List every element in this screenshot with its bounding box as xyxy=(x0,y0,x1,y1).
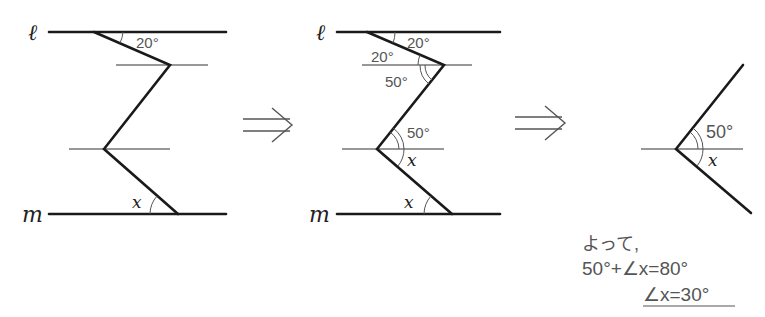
line-label-m: m xyxy=(309,202,330,227)
angle-arc-20-top xyxy=(393,32,395,43)
angle-arc-x xyxy=(150,196,157,214)
angle-arc-50-b xyxy=(690,132,698,149)
angle-arc-20-alt xyxy=(418,55,420,65)
diagram-canvas: ℓ m 20° x ℓ m 20° 20° 50° 50° xyxy=(0,0,765,317)
implies-arrow-1 xyxy=(243,108,292,142)
angle-label-x-mid: x xyxy=(407,150,417,170)
solution: よって, 50°+∠x=80° ∠x=30° xyxy=(582,234,735,306)
solution-line-2: 50°+∠x=80° xyxy=(582,258,688,279)
angle-arc-x-bottom xyxy=(424,196,431,214)
angle-label-x: x xyxy=(132,192,142,212)
zigzag-path xyxy=(94,32,178,214)
angle-label-20-alt: 20° xyxy=(371,48,394,65)
angle-arc-x-mid xyxy=(398,149,404,166)
angle-label-x-bottom: x xyxy=(404,192,414,212)
figure-auxiliary: ℓ m 20° 20° 50° 50° x x xyxy=(309,20,500,227)
implies-arrow-2 xyxy=(515,106,565,140)
angle-arc-x xyxy=(697,149,703,166)
angle-label-50-upper: 50° xyxy=(385,73,408,90)
angle-arc-50-upper-b xyxy=(425,65,432,80)
figure-extracted: 50° x xyxy=(641,65,751,213)
solution-line-3: ∠x=30° xyxy=(643,284,709,305)
solution-line-1: よって, xyxy=(582,234,639,254)
angle-arc-20 xyxy=(120,32,123,43)
line-label-l: ℓ xyxy=(28,20,38,45)
angle-label-50: 50° xyxy=(706,122,733,142)
angle-label-20: 20° xyxy=(136,34,159,51)
angle-label-20-top: 20° xyxy=(407,34,430,51)
angle-label-x: x xyxy=(708,150,718,170)
line-label-l: ℓ xyxy=(316,20,326,45)
angle-label-50-lower: 50° xyxy=(407,124,430,141)
figure-original: ℓ m 20° x xyxy=(22,20,226,227)
line-label-m: m xyxy=(22,202,43,227)
angle-arc-50-lower-b xyxy=(390,132,399,149)
